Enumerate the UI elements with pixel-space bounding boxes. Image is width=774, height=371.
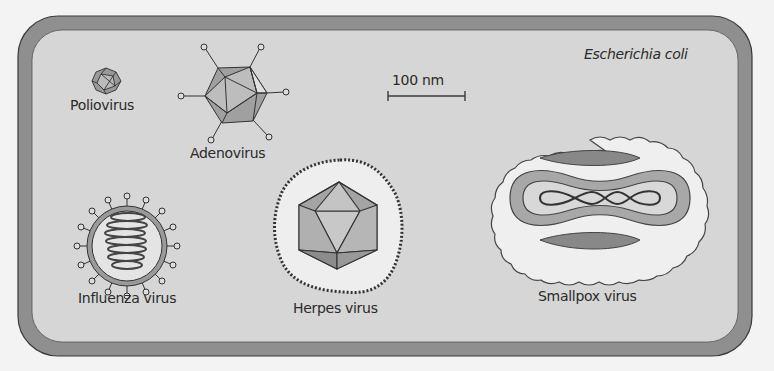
adenovirus-label: Adenovirus [190, 145, 265, 161]
scale-bar-label: 100 nm [392, 72, 444, 88]
herpes-virus-icon [275, 160, 403, 293]
influenza-virus-icon [74, 193, 180, 299]
escherichia-coli-label: Escherichia coli [584, 46, 688, 62]
virus-size-diagram: Escherichia coli 100 nm Poliovirus Adeno… [0, 0, 774, 371]
smallpox-virus-label: Smallpox virus [538, 288, 637, 304]
poliovirus-label: Poliovirus [70, 97, 134, 113]
herpes-virus-label: Herpes virus [293, 300, 378, 316]
influenza-virus-label: Influenza virus [78, 290, 176, 306]
